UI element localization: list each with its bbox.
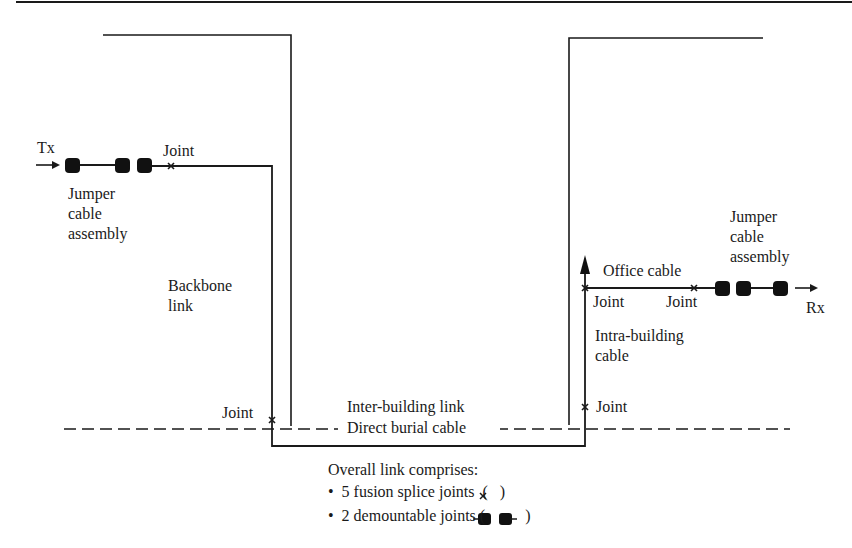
demountable-joint-icon	[115, 158, 130, 173]
demountable-joint-icon	[137, 158, 152, 173]
optical-link-diagram: Tx Joint Jumper cable assembly Backbone …	[0, 0, 852, 548]
demountable-joint-icon	[65, 158, 80, 173]
jumper-cable-assembly-right-label: Jumper cable assembly	[730, 207, 790, 267]
legend-item-fusion: • 5 fusion splice joints ( )	[328, 482, 505, 502]
up-arrow-icon	[580, 255, 590, 274]
rx-label: Rx	[806, 298, 825, 318]
jumper-cable-assembly-left-label: Jumper cable assembly	[68, 184, 128, 244]
inter-building-link-label: Inter-building link	[347, 397, 464, 417]
joint-label-right-bottom: Joint	[596, 397, 627, 417]
joint-label-right-2: Joint	[666, 292, 697, 312]
legend-bullet: •	[328, 483, 334, 500]
office-cable-label: Office cable	[603, 261, 681, 281]
legend-title: Overall link comprises:	[328, 460, 478, 480]
direct-burial-cable-label: Direct burial cable	[347, 418, 466, 438]
demountable-joint-icon	[773, 281, 788, 296]
backbone-link-label: Backbone link	[168, 276, 232, 316]
legend-item-demountable: • 2 demountable joints ( )	[328, 506, 530, 526]
left-cable-path	[74, 165, 585, 446]
tx-arrow-icon	[36, 161, 60, 169]
joint-label-right-1: Joint	[593, 292, 624, 312]
rx-arrow-icon	[810, 284, 818, 292]
legend-item-text: 5 fusion splice joints	[342, 483, 475, 500]
intra-building-cable-label: Intra-building cable	[595, 326, 684, 366]
joint-label-left-bottom: Joint	[222, 403, 253, 423]
demountable-joint-icon	[715, 281, 730, 296]
joint-label-left-top: Joint	[163, 141, 194, 161]
demountable-joint-icon	[736, 281, 751, 296]
legend-item-text: 2 demountable joints	[342, 507, 476, 524]
left-building	[103, 35, 291, 426]
legend-bullet: •	[328, 507, 334, 524]
tx-label: Tx	[37, 138, 55, 158]
